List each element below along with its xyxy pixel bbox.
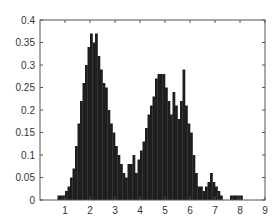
histogram-bar	[73, 169, 76, 201]
histogram-bar	[183, 70, 186, 201]
histogram-chart: 123456789 00.050.10.150.20.250.30.350.4	[0, 0, 280, 224]
histogram-bar	[133, 155, 136, 200]
histogram-bar	[125, 178, 128, 201]
histogram-bar	[138, 160, 141, 201]
y-tick-label: 0.2	[21, 105, 35, 116]
histogram-bar	[60, 196, 63, 201]
histogram-bar	[220, 196, 223, 201]
histogram-bar	[100, 70, 103, 201]
histogram-bar	[193, 155, 196, 200]
histogram-bar	[175, 106, 178, 201]
histogram-bar	[105, 88, 108, 201]
histogram-bar	[103, 83, 106, 200]
y-tick-label: 0.15	[16, 127, 36, 138]
histogram-bar	[58, 196, 61, 201]
y-tick-label: 0.35	[16, 37, 36, 48]
histogram-bar	[80, 101, 83, 200]
histogram-bar	[130, 164, 133, 200]
histogram-bar	[163, 74, 166, 200]
histogram-bar	[115, 146, 118, 200]
histogram-bar	[190, 133, 193, 201]
histogram-bar	[173, 92, 176, 200]
histogram-bar	[135, 173, 138, 200]
histogram-bar	[185, 106, 188, 201]
y-tick-label: 0	[29, 195, 35, 206]
histogram-bar	[200, 187, 203, 201]
histogram-bar	[150, 106, 153, 201]
histogram-bar	[165, 88, 168, 201]
histogram-bar	[108, 110, 111, 200]
y-tick-label: 0.05	[16, 172, 36, 183]
histogram-bar	[203, 191, 206, 200]
x-tick-label: 5	[162, 205, 168, 216]
histogram-bar	[188, 124, 191, 201]
histogram-bar	[158, 74, 161, 200]
histogram-bar	[210, 173, 213, 200]
histogram-bar	[145, 128, 148, 200]
histogram-bar	[93, 43, 96, 201]
histogram-bar	[78, 124, 81, 201]
histogram-bar	[160, 74, 163, 200]
x-tick-label: 2	[87, 205, 93, 216]
histogram-bar	[195, 173, 198, 200]
histogram-bars	[58, 34, 243, 201]
x-tick-label: 7	[212, 205, 218, 216]
histogram-bar	[98, 56, 101, 200]
histogram-bar	[218, 191, 221, 200]
histogram-bar	[198, 187, 201, 201]
histogram-bar	[170, 115, 173, 201]
histogram-bar	[85, 65, 88, 200]
histogram-bar	[233, 196, 236, 201]
histogram-bar	[235, 196, 238, 201]
histogram-bar	[113, 133, 116, 201]
x-tick-label: 3	[112, 205, 118, 216]
y-tick-label: 0.3	[21, 60, 35, 71]
histogram-bar	[75, 146, 78, 200]
x-tick-label: 9	[262, 205, 268, 216]
histogram-bar	[208, 182, 211, 200]
histogram-bar	[120, 164, 123, 200]
histogram-bar	[180, 101, 183, 200]
histogram-bar	[178, 119, 181, 200]
histogram-bar	[68, 187, 71, 201]
histogram-bar	[143, 142, 146, 201]
histogram-bar	[148, 115, 151, 201]
y-tick-label: 0.4	[21, 15, 35, 26]
histogram-bar	[83, 83, 86, 200]
histogram-bar	[230, 196, 233, 201]
x-tick-label: 1	[62, 205, 68, 216]
histogram-bar	[95, 34, 98, 201]
x-tick-label: 8	[237, 205, 243, 216]
histogram-bar	[90, 34, 93, 201]
histogram-bar	[168, 101, 171, 200]
y-tick-label: 0.25	[16, 82, 36, 93]
x-tick-label: 6	[187, 205, 193, 216]
y-tick-label: 0.1	[21, 150, 35, 161]
histogram-bar	[140, 151, 143, 201]
histogram-bar	[70, 178, 73, 201]
x-tick-label: 4	[137, 205, 143, 216]
histogram-bar	[118, 155, 121, 200]
histogram-bar	[123, 173, 126, 200]
histogram-bar	[155, 79, 158, 201]
histogram-bar	[88, 47, 91, 200]
histogram-bar	[205, 187, 208, 201]
histogram-bar	[153, 97, 156, 201]
histogram-bar	[128, 164, 131, 200]
histogram-bar	[110, 124, 113, 201]
